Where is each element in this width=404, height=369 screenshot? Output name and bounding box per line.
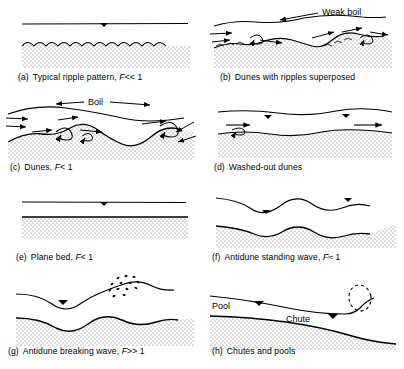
boil-leader-left [56,102,84,104]
panel-h-tag: (h) [212,346,223,356]
panel-h-chutes-and-pools: Pool Chute (h)Chutes and pools [202,272,404,364]
water-surface-symbol [100,23,108,27]
panel-e-caption-text: Plane bed, [31,252,73,262]
bed-profile [8,124,194,160]
panel-a-typical-ripple-pattern: (a)Typical ripple pattern, F<< 1 [0,2,202,94]
panel-d-tag: (d) [214,162,225,172]
panel-g-froude-relation: >> 1 [127,346,145,356]
water-surface-line [210,296,374,314]
panel-d-caption-text: Washed-out dunes [229,162,302,172]
bedform-regime-figure: (a)Typical ripple pattern, F<< 1 Wea [0,0,404,369]
flow-arrow-6 [370,32,388,35]
panel-g-antidune-breaking-wave: (g)Antidune breaking wave, F>> 1 [0,272,202,364]
panel-f-froude-relation: ≈ 1 [328,252,340,262]
panel-e-caption: (e)Plane bed, F< 1 [0,252,218,263]
panel-e-tag: (e) [16,252,27,262]
water-surface-symbol [58,300,68,305]
water-surface-line [8,107,184,121]
wave-spray-dots [108,275,140,298]
panel-c-caption-text: Dunes, [24,162,52,172]
panel-b-tag: (b) [220,72,231,82]
flow-arrow-3 [32,130,52,132]
panel-e-illustration [0,182,202,254]
flow-arrow-4 [312,32,334,38]
panel-a-tag: (a) [18,72,29,82]
panel-c-dunes: Boil (c)Dunes, F< 1 [0,92,202,184]
water-surface-line [16,282,174,309]
panel-f-caption: (f)Antidune standing wave, F≈ 1 [202,252,404,263]
panel-f-tag: (f) [212,252,220,262]
flow-arrow-2 [212,40,230,42]
bed-profile [214,33,392,68]
flow-arrow-1 [210,33,232,34]
panel-h-caption-text: Chutes and pools [227,346,296,356]
flow-arrow-5 [342,28,362,32]
panel-b-caption: (b)Dunes with ripples superposed [202,72,404,83]
panel-c-caption: (c)Dunes, F< 1 [0,162,212,173]
weak-boil-label: Weak boil [322,7,361,17]
boil-label: Boil [88,97,103,107]
panel-a-caption: (a)Typical ripple pattern, F<< 1 [0,72,220,83]
panel-g-caption-text: Antidune breaking wave, [23,346,119,356]
panel-f-illustration [202,182,404,254]
panel-h-caption: (h)Chutes and pools [202,346,404,357]
panel-b-illustration: Weak boil [202,2,404,74]
panel-g-caption: (g)Antidune breaking wave, F>> 1 [0,346,210,357]
panel-d-illustration [202,92,404,164]
panel-g-illustration [0,272,202,350]
panel-c-tag: (c) [10,162,20,172]
flow-arrow-2 [6,126,26,127]
water-surface-symbol-chute [328,314,338,319]
bed-profile [22,217,188,239]
flow-arrow-4 [58,117,78,120]
panel-d-caption: (d)Washed-out dunes [202,162,404,173]
panel-a-caption-text: Typical ripple pattern, [33,72,117,82]
panel-d-washed-out-dunes: (d)Washed-out dunes [202,92,404,184]
panel-a-froude-relation: << 1 [125,72,143,82]
panel-c-illustration: Boil [0,92,202,164]
panel-f-antidune-standing-wave: (f)Antidune standing wave, F≈ 1 [202,182,404,274]
water-surface-line [218,109,392,115]
panel-c-froude-relation: < 1 [60,162,73,172]
water-surface-symbol [100,202,108,206]
panel-f-caption-text: Antidune standing wave, [224,252,320,262]
panel-e-plane-bed: (e)Plane bed, F< 1 [0,182,202,274]
water-surface-symbol-right [344,198,352,202]
water-surface-symbol-right [342,114,350,118]
panel-a-illustration [0,2,202,74]
pool-label: Pool [212,301,230,311]
panel-b-caption-text: Dunes with ripples superposed [235,72,355,82]
panel-g-tag: (g) [8,346,19,356]
panel-b-dunes-with-ripples: Weak boil (b)Dunes with ripples superpos… [202,2,404,94]
flow-arrow-1 [6,118,28,119]
panel-e-froude-relation: < 1 [81,252,94,262]
panel-h-illustration: Pool Chute [202,272,404,350]
water-surface-symbol-left [264,115,272,119]
boil-leader-right [110,102,150,105]
